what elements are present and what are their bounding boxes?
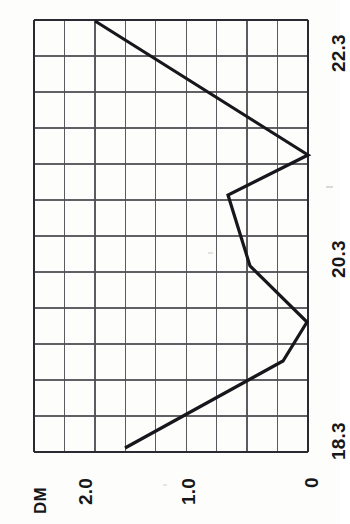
scan-artifact-speck-3 <box>163 484 167 486</box>
grid-lines <box>34 20 308 452</box>
value-axis-tick-0: 0 <box>301 477 323 488</box>
data-series-line <box>95 21 308 448</box>
value-axis-title: DM <box>31 487 51 514</box>
scan-artifact-speck-2 <box>208 252 213 254</box>
date-axis-tick-18.3: 18.3 <box>328 422 350 460</box>
series-polyline <box>95 21 308 448</box>
date-axis-tick-20.3: 20.3 <box>328 240 350 278</box>
scan-artifact-speck <box>326 186 333 188</box>
value-axis-tick-2.0: 2.0 <box>75 478 97 505</box>
date-axis-tick-22.3: 22.3 <box>328 34 350 72</box>
value-axis-tick-1.0: 1.0 <box>178 478 200 505</box>
